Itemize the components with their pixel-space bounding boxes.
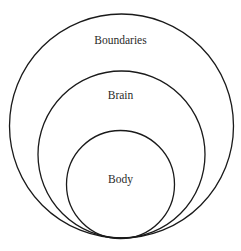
body-label: Body: [108, 173, 133, 186]
brain-label: Brain: [108, 89, 134, 101]
nested-circles-diagram: Boundaries Brain Body: [0, 0, 241, 251]
boundaries-label: Boundaries: [94, 34, 147, 46]
